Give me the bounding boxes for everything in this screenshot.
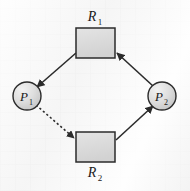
edge-p2-to-r1 — [117, 53, 153, 86]
diagram-canvas: P 1 P 2 R 1 R 2 — [0, 0, 190, 191]
resource-rect-r1 — [76, 28, 115, 58]
resource-label-group-r1: R 1 — [87, 9, 103, 27]
resource-label-group-r2: R 2 — [87, 165, 103, 183]
resource-node-r1 — [76, 28, 115, 58]
resource-allocation-graph: P 1 P 2 R 1 R 2 — [0, 0, 190, 191]
edge-r1-to-p1 — [37, 53, 76, 87]
process-node-p1: P 1 — [13, 82, 41, 110]
resource-node-r2 — [76, 132, 115, 162]
process-circle-p2 — [148, 82, 176, 110]
resource-rect-r2 — [76, 132, 115, 162]
process-circle-p1 — [13, 82, 41, 110]
resource-label-r1: R — [87, 9, 97, 24]
resource-subscript-r2: 2 — [98, 173, 103, 183]
process-node-p2: P 2 — [148, 82, 176, 110]
resource-label-r2: R — [87, 165, 97, 180]
edge-group — [36, 53, 153, 140]
edge-p1-to-r2 — [36, 105, 74, 138]
edge-r2-to-p2 — [116, 106, 153, 140]
resource-subscript-r1: 1 — [98, 17, 103, 27]
